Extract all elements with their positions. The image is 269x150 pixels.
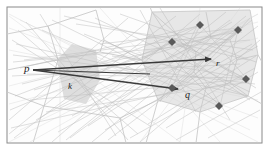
label-r: r [216,58,220,68]
label-q: q [185,89,190,100]
label-p: p [23,62,30,74]
mesh-network-figure: p k q r [0,0,269,150]
figure-container: p k q r [0,0,269,150]
